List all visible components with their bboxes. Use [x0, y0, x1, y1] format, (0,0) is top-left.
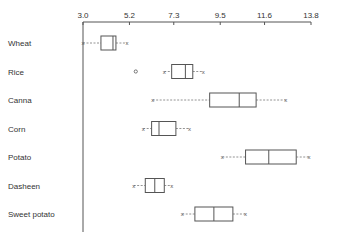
- box-canna: xx: [151, 93, 287, 107]
- whisker-cap-high: x: [307, 154, 310, 160]
- box-potato: xx: [221, 150, 311, 164]
- box-sweet-potato: xx: [181, 207, 247, 221]
- category-labels: WheatRiceCannaCornPotatoDasheenSweet pot…: [8, 39, 55, 219]
- whisker-cap-low: x: [221, 154, 224, 160]
- whisker-cap-low: x: [163, 69, 166, 75]
- whisker-cap-low: x: [132, 183, 135, 189]
- box-corn: xx: [142, 122, 191, 136]
- outlier-point: [134, 70, 137, 73]
- boxplot-chart: 3.05.27.39.511.613.8 WheatRiceCannaCornP…: [0, 0, 337, 240]
- category-label: Dasheen: [8, 182, 40, 191]
- whisker-cap-high: x: [202, 69, 205, 75]
- box-wheat: xx: [82, 36, 129, 50]
- x-tick-label: 13.8: [303, 11, 319, 20]
- whisker-cap-low: x: [151, 97, 154, 103]
- boxes: xxxxxxxxxxxxxx: [82, 36, 311, 221]
- iqr-box: [172, 65, 193, 79]
- x-tick-label: 11.6: [257, 11, 273, 20]
- iqr-box: [246, 150, 297, 164]
- whisker-cap-low: x: [181, 211, 184, 217]
- iqr-box: [210, 93, 256, 107]
- whisker-cap-high: x: [188, 126, 191, 132]
- x-tick-label: 3.0: [77, 11, 89, 20]
- category-label: Rice: [8, 68, 25, 77]
- whisker-cap-high: x: [244, 211, 247, 217]
- whisker-cap-high: x: [284, 97, 287, 103]
- box-rice: xx: [134, 65, 205, 79]
- category-label: Potato: [8, 153, 32, 162]
- whisker-cap-low: x: [142, 126, 145, 132]
- whisker-cap-high: x: [125, 40, 128, 46]
- x-tick-label: 5.2: [124, 11, 136, 20]
- iqr-box: [152, 122, 176, 136]
- category-label: Canna: [8, 96, 32, 105]
- category-label: Wheat: [8, 39, 32, 48]
- whisker-cap-high: x: [170, 183, 173, 189]
- whisker-cap-low: x: [82, 40, 85, 46]
- iqr-box: [101, 36, 116, 50]
- x-tick-label: 9.5: [215, 11, 227, 20]
- x-tick-label: 7.3: [168, 11, 180, 20]
- category-label: Corn: [8, 125, 25, 134]
- box-dasheen: xx: [132, 179, 173, 193]
- category-label: Sweet potato: [8, 210, 55, 219]
